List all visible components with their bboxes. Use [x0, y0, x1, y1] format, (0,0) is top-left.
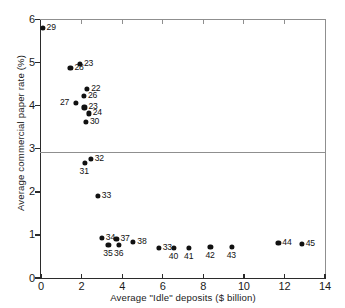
x-axis-label: Average "Idle" deposits ($ billion)	[40, 292, 326, 303]
x-tick-label: 2	[72, 281, 92, 292]
x-tick-mark	[284, 274, 285, 279]
x-tick-label: 12	[274, 281, 294, 292]
data-point	[186, 245, 191, 250]
data-point	[299, 241, 304, 246]
data-point-label: 33	[102, 191, 111, 200]
x-tick-label: 0	[31, 281, 51, 292]
data-point-label: 45	[306, 239, 315, 248]
data-point	[95, 194, 100, 199]
y-tick-mark	[35, 105, 40, 106]
plot-frame-midline	[40, 152, 326, 153]
y-tick-mark	[35, 148, 40, 149]
x-tick-mark	[324, 274, 325, 279]
data-point	[73, 100, 78, 105]
data-point	[68, 65, 73, 70]
x-tick-mark	[122, 274, 123, 279]
y-tick-mark	[35, 277, 40, 278]
x-tick-mark-top	[203, 20, 204, 24]
x-tick-mark-top	[122, 20, 123, 24]
data-point-label: 36	[114, 249, 123, 258]
data-point	[208, 244, 213, 249]
data-point	[171, 245, 176, 250]
data-point-label: 32	[95, 154, 104, 163]
data-point	[276, 240, 281, 245]
data-point	[114, 236, 119, 241]
data-point-label: 43	[227, 251, 236, 260]
x-tick-mark	[40, 274, 41, 279]
scatter-chart: 0123456 02468101214 29282322262723243031…	[0, 0, 345, 308]
data-point-label: 42	[205, 251, 214, 260]
y-axis-line	[40, 19, 41, 279]
data-point-label: 30	[90, 117, 99, 126]
data-point-label: 31	[80, 167, 89, 176]
y-tick-mark	[35, 19, 40, 20]
x-tick-mark-top	[162, 20, 163, 24]
data-point	[131, 239, 136, 244]
data-point-label: 27	[60, 98, 69, 107]
x-tick-label: 8	[193, 281, 213, 292]
data-point	[81, 94, 86, 99]
x-tick-label: 6	[153, 281, 173, 292]
data-point-label: 37	[120, 234, 129, 243]
x-tick-mark-top	[284, 20, 285, 24]
data-point-label: 29	[47, 23, 56, 32]
data-point	[82, 105, 87, 110]
data-point-label: 40	[169, 252, 178, 261]
plot-frame-right	[325, 19, 326, 279]
x-tick-mark	[162, 274, 163, 279]
data-point	[40, 26, 45, 31]
x-tick-mark	[243, 274, 244, 279]
y-tick-mark	[35, 62, 40, 63]
y-axis-label: Average commercial paper rate (%)	[15, 8, 26, 258]
data-point	[99, 235, 104, 240]
x-tick-mark	[81, 274, 82, 279]
x-tick-label: 10	[234, 281, 254, 292]
data-point-label: 44	[282, 238, 291, 247]
data-point-label: 35	[103, 249, 112, 258]
data-point	[117, 243, 122, 248]
x-tick-mark-top	[81, 20, 82, 24]
data-point	[156, 245, 161, 250]
data-point	[106, 243, 111, 248]
data-point	[229, 244, 234, 249]
data-point-label: 26	[88, 91, 97, 100]
y-tick-mark	[35, 191, 40, 192]
data-point	[83, 119, 88, 124]
x-tick-label: 4	[112, 281, 132, 292]
data-point	[82, 160, 87, 165]
data-point-label: 38	[137, 237, 146, 246]
data-point	[88, 156, 93, 161]
data-point-label: 23	[84, 59, 93, 68]
x-tick-mark	[203, 274, 204, 279]
x-tick-label: 14	[315, 281, 335, 292]
x-tick-mark-top	[243, 20, 244, 24]
data-point-label: 41	[184, 252, 193, 261]
y-tick-mark	[35, 234, 40, 235]
